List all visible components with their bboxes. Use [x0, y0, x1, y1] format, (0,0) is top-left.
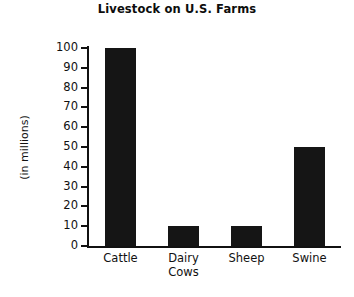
y-tick-label: 100 — [38, 42, 78, 53]
bar-dairy-cows[interactable] — [168, 226, 199, 246]
y-axis-title: (in millions) — [14, 48, 34, 246]
bar-sheep[interactable] — [231, 226, 262, 246]
y-tick-label: 40 — [38, 161, 78, 172]
bar-chart: Livestock on U.S. Farms (in millions) 10… — [0, 0, 354, 297]
y-tick-mark — [81, 67, 88, 69]
x-tick-label-line: Swine — [270, 251, 350, 265]
y-tick-mark — [81, 126, 88, 128]
y-tick-mark — [81, 87, 88, 89]
y-tick-label: 0 — [38, 240, 78, 251]
x-tick-label-line: Cows — [144, 265, 224, 279]
y-tick-mark — [81, 186, 88, 188]
y-tick-label: 80 — [38, 82, 78, 93]
y-tick-mark — [81, 166, 88, 168]
y-axis-title-text: (in millions) — [18, 115, 31, 179]
y-tick-label: 30 — [38, 181, 78, 192]
y-tick-mark — [81, 106, 88, 108]
x-tick-label: Swine — [270, 251, 350, 265]
y-tick-mark — [81, 225, 88, 227]
y-tick-label: 50 — [38, 141, 78, 152]
y-tick-label: 10 — [38, 220, 78, 231]
chart-title: Livestock on U.S. Farms — [0, 2, 354, 16]
bar-cattle[interactable] — [105, 48, 136, 246]
x-axis-line — [87, 246, 341, 248]
y-tick-mark — [81, 245, 88, 247]
bar-swine[interactable] — [294, 147, 325, 246]
y-tick-label: 90 — [38, 62, 78, 73]
y-tick-label: 60 — [38, 121, 78, 132]
plot-area — [88, 48, 340, 246]
y-tick-mark — [81, 47, 88, 49]
y-tick-mark — [81, 146, 88, 148]
y-tick-label: 20 — [38, 200, 78, 211]
y-tick-label: 70 — [38, 101, 78, 112]
y-tick-mark — [81, 205, 88, 207]
